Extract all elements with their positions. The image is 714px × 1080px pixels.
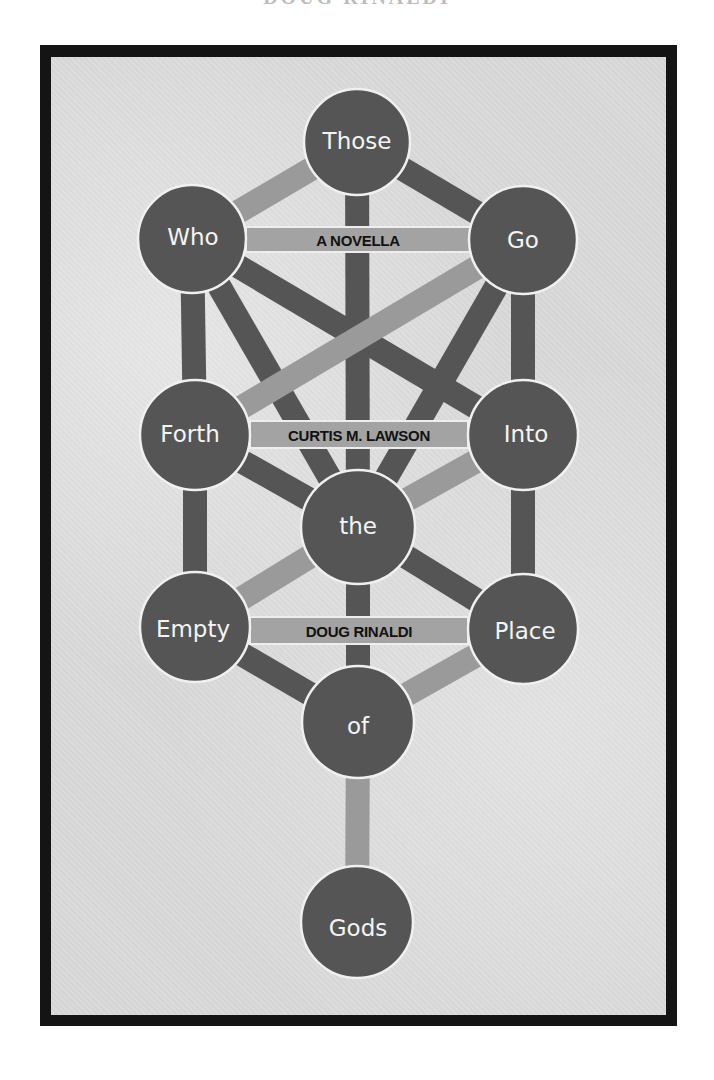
subtitle-text: A NOVELLA	[316, 232, 400, 249]
tree-of-life-diagram: A NOVELLA CURTIS M. LAWSON DOUG RINALDI …	[0, 0, 714, 1080]
author-2-text: DOUG RINALDI	[306, 623, 413, 640]
node-label-those: Those	[322, 128, 392, 154]
node-label-the: the	[339, 513, 377, 539]
node-label-gods: Gods	[329, 915, 387, 941]
node-label-who: Who	[167, 224, 218, 250]
node-label-of: of	[347, 713, 370, 739]
node-label-go: Go	[507, 227, 539, 253]
node-label-place: Place	[494, 618, 555, 644]
author-1-text: CURTIS M. LAWSON	[288, 427, 430, 444]
node-label-into: Into	[504, 421, 548, 447]
node-label-forth: Forth	[160, 421, 220, 447]
node-label-empty: Empty	[156, 616, 230, 642]
